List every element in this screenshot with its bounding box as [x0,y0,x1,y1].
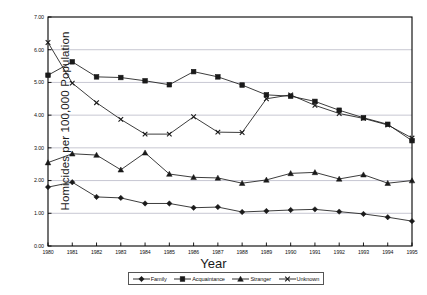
legend-item-unknown[interactable]: Unknown [279,275,320,283]
legend-item-acquaintance[interactable]: Acquaintance [174,275,225,283]
y-axis-title-text: Homicides per 100,000 Population [59,32,71,211]
legend-label: Family [151,276,167,282]
data-point-marker [94,100,99,105]
plot-frame [48,17,412,246]
data-point-marker [167,201,172,206]
series-line [48,62,412,141]
data-point-marker [118,195,123,200]
series-stranger [45,150,415,186]
data-point-marker [216,75,221,80]
data-point-marker [143,78,148,83]
data-point-marker [118,167,124,172]
y-tick-label: 5.00 [14,79,44,85]
data-point-marker [45,160,51,165]
data-point-marker [264,208,269,213]
y-tick-label: 3.00 [14,145,44,151]
data-point-marker [142,150,148,155]
data-point-marker [288,207,293,212]
data-point-marker [139,276,144,281]
homicides-line-chart: Homicides per 100,000 Population Year 0.… [0,0,427,295]
data-point-marker [45,184,50,189]
data-point-marker [191,69,196,74]
data-point-marker [142,201,147,206]
data-point-marker [239,209,244,214]
data-point-marker [94,194,99,199]
data-point-marker [240,83,245,88]
x-tick-label: 1995 [397,249,427,255]
triangle-marker-icon [232,275,249,283]
y-tick-label: 2.00 [14,177,44,183]
x-axis-title: Year [0,256,427,271]
chart-legend: FamilyAcquaintanceStrangerUnknown [128,272,324,285]
y-tick-label: 4.00 [14,112,44,118]
data-point-marker [385,215,390,220]
y-axis-title: Homicides per 100,000 Population [55,1,73,241]
data-point-marker [409,218,414,223]
series-line [48,43,412,139]
series-line [48,153,412,183]
legend-label: Stranger [250,276,271,282]
legend-label: Acquaintance [192,276,225,282]
series-family [45,180,414,224]
legend-item-stranger[interactable]: Stranger [232,275,271,283]
data-point-marker [180,276,185,281]
data-point-marker [46,73,51,78]
data-point-marker [119,117,124,122]
y-tick-label: 1.00 [14,210,44,216]
square-marker-icon [174,275,191,283]
legend-item-family[interactable]: Family [133,275,167,283]
y-tick-label: 6.00 [14,47,44,53]
data-point-marker [191,205,196,210]
diamond-marker-icon [133,275,150,283]
series-unknown [46,40,415,140]
data-point-marker [361,211,366,216]
data-point-marker [312,207,317,212]
y-tick-label: 7.00 [14,14,44,20]
series-line [48,182,412,221]
data-point-marker [361,172,367,177]
y-tick-label: 0.00 [14,243,44,249]
legend-label: Unknown [297,276,320,282]
data-point-marker [119,75,124,80]
data-point-marker [215,204,220,209]
data-point-marker [167,82,172,87]
data-point-marker [94,75,99,80]
series-acquaintance [46,60,415,143]
cross-marker-icon [279,275,296,283]
